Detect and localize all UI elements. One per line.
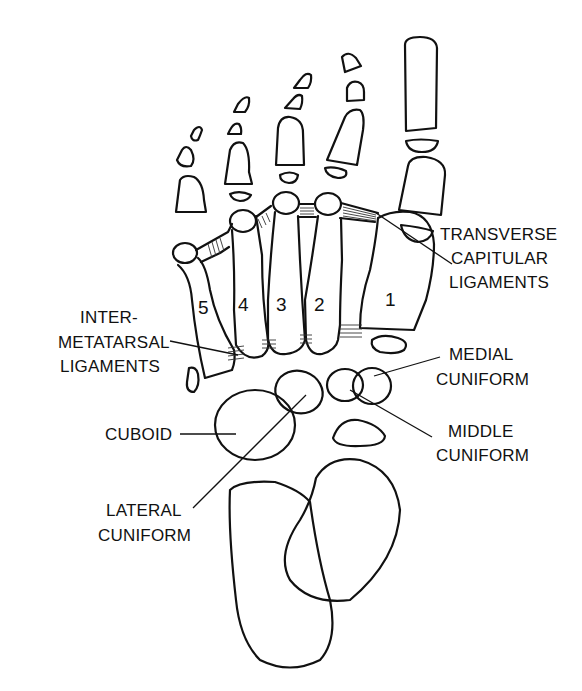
talus-bone bbox=[285, 459, 400, 601]
metatarsal-5 bbox=[178, 258, 235, 392]
foot-diagram: 5 4 3 2 1 TRANSVERSE CAPITULAR LIGAMENTS… bbox=[0, 0, 582, 691]
cuboid-bone bbox=[215, 390, 295, 460]
svg-text:CUNIFORM: CUNIFORM bbox=[98, 526, 191, 545]
intermetatarsal-ligaments bbox=[228, 325, 362, 360]
metatarsal-number-2: 2 bbox=[314, 294, 325, 315]
svg-text:CAPITULAR: CAPITULAR bbox=[451, 249, 548, 268]
label-transverse-capitular-ligaments: TRANSVERSE CAPITULAR LIGAMENTS bbox=[440, 225, 557, 292]
label-intermetatarsal-ligaments: INTER- METATARSAL LIGAMENTS bbox=[58, 308, 170, 376]
toe-2-phalanges bbox=[325, 54, 364, 178]
calcaneus-bone bbox=[230, 482, 333, 668]
navicular-bone bbox=[333, 420, 385, 446]
svg-text:MEDIAL: MEDIAL bbox=[449, 345, 514, 364]
svg-text:METATARSAL: METATARSAL bbox=[58, 333, 170, 352]
metatarsal-1 bbox=[360, 212, 434, 354]
svg-text:LIGAMENTS: LIGAMENTS bbox=[449, 273, 549, 292]
toe-3-phalanges bbox=[276, 74, 311, 183]
metatarsal-4 bbox=[232, 216, 268, 358]
metatarsal-3 bbox=[268, 212, 305, 354]
metatarsal-number-4: 4 bbox=[238, 294, 249, 315]
label-medial-cuniform: MEDIAL CUNIFORM bbox=[436, 345, 529, 389]
svg-text:CUNIFORM: CUNIFORM bbox=[436, 370, 529, 389]
label-cuboid: CUBOID bbox=[105, 425, 172, 444]
lateral-cuniform-bone bbox=[269, 364, 328, 420]
svg-text:LIGAMENTS: LIGAMENTS bbox=[60, 357, 160, 376]
toe-4-phalanges bbox=[225, 97, 252, 201]
metatarsal-2 bbox=[305, 216, 342, 354]
transverse-capitular-ligaments bbox=[196, 203, 378, 262]
svg-text:LATERAL: LATERAL bbox=[106, 501, 182, 520]
metatarsal-number-5: 5 bbox=[198, 297, 209, 318]
metatarsal-numbers: 5 4 3 2 1 bbox=[198, 289, 396, 318]
metatarsal-number-1: 1 bbox=[385, 289, 396, 310]
label-middle-cuniform: MIDDLE CUNIFORM bbox=[436, 422, 529, 465]
svg-text:CUBOID: CUBOID bbox=[105, 425, 172, 444]
svg-text:INTER-: INTER- bbox=[80, 308, 138, 327]
label-lateral-cuniform: LATERAL CUNIFORM bbox=[98, 501, 191, 545]
svg-text:TRANSVERSE: TRANSVERSE bbox=[440, 225, 557, 244]
metatarsal-number-3: 3 bbox=[276, 294, 287, 315]
svg-text:CUNIFORM: CUNIFORM bbox=[436, 446, 529, 465]
toe-5-phalanges bbox=[176, 127, 206, 212]
svg-text:MIDDLE: MIDDLE bbox=[448, 422, 513, 441]
